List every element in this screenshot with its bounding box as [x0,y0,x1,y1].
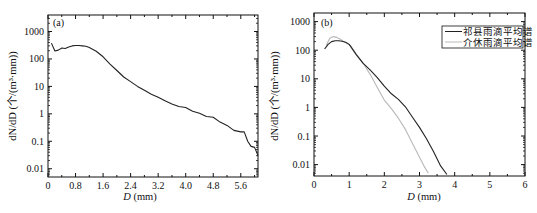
y-tick-label: 10 [300,73,310,84]
x-tick-label: 1.6 [97,180,110,191]
y-tick-label: 1000 [290,16,310,27]
data-lines-b [325,37,447,175]
x-tick-label: 5 [487,179,492,190]
y-tick-label: 0.01 [293,159,311,170]
x-axis-title-a: D (mm) [122,191,157,203]
chart-panel-b: 0123456 0.010.11101001000 (b) 祁县雨滴平均谱 介休… [269,13,533,203]
x-tick-label: 2 [382,179,387,190]
y-tick-label: 0.01 [27,163,45,174]
y-axis-ticks-a: 0.010.11101001000 [24,18,258,174]
y-tick-label: 0.1 [298,131,311,142]
x-tick-label: 0 [312,179,317,190]
x-tick-label: 3.2 [152,180,165,191]
x-tick-label: 3 [417,179,422,190]
y-axis-title-b: dN/dD (个/(m³·mm)) [269,51,281,141]
x-axis-ticks-a: 00.81.62.43.24.04.85.6 [46,15,255,191]
data-series-line [325,41,447,175]
x-tick-label: 2.4 [124,180,137,191]
plot-frame-a [48,15,258,177]
legend-label-qixian: 祁县雨滴平均谱 [463,26,533,37]
legend-b: 祁县雨滴平均谱 介休雨滴平均谱 [442,26,533,48]
data-series-line [326,37,428,174]
panel-label-b: (b) [321,17,333,29]
x-tick-label: 5.6 [235,180,248,191]
x-tick-label: 1 [347,179,352,190]
data-lines-a [51,43,258,156]
data-series-line [51,43,258,156]
panel-label-a: (a) [53,17,64,29]
y-tick-label: 1 [305,102,310,113]
x-tick-label: 0 [46,180,51,191]
x-tick-label: 6 [523,179,528,190]
x-axis-title-b: D (mm) [406,191,441,203]
y-tick-label: 1000 [24,26,44,37]
y-tick-label: 10 [34,81,44,92]
legend-label-jiexiu: 介休雨滴平均谱 [463,37,533,48]
y-tick-label: 100 [29,53,44,64]
y-tick-label: 100 [295,45,310,56]
y-axis-title-a: dN/dD (个/(m³·mm)) [7,51,19,141]
chart-panel-a: 00.81.62.43.24.04.85.6 0.010.11101001000… [7,15,258,203]
x-tick-label: 4.8 [207,180,220,191]
y-tick-label: 0.1 [32,136,45,147]
x-tick-label: 4.0 [179,180,192,191]
chart-canvas: 00.81.62.43.24.04.85.6 0.010.11101001000… [0,0,537,213]
x-tick-label: 0.8 [69,180,82,191]
x-tick-label: 4 [452,179,457,190]
y-tick-label: 1 [39,108,44,119]
